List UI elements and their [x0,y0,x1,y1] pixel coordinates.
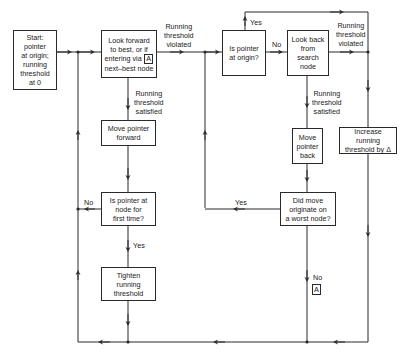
first-time-text: Is pointer at node for first time? [110,196,148,223]
tighten-threshold-node: Tighten running threshold [101,267,156,301]
look-forward-line4: next–best node [104,64,153,73]
look-forward-line2: to best, or if [110,45,148,54]
label-back-violated: Running threshold violated [336,21,366,48]
flowchart: Start: pointer at origin; running thresh… [0,0,410,357]
label-origin-yes: Yes [250,18,262,27]
tighten-threshold-text: Tighten running threshold [114,271,144,298]
label-forward-satisfied: Running threshold satisfied [134,89,164,116]
increase-threshold-text: Increase running threshold by Δ [342,127,394,154]
label-worst-yes: Yes [235,198,247,207]
label-first-yes: Yes [133,241,145,250]
connector-lines [0,0,410,357]
label-forward-violated: Running threshold violated [164,22,194,49]
look-forward-line3: entering viaA [105,54,154,64]
first-time-node: Is pointer at node for first time? [101,192,156,226]
move-forward-node: Move pointer forward [101,120,156,146]
connector-a: A [312,284,321,295]
label-origin-no: No [272,40,281,49]
start-node-text: Start: pointer at origin; running thresh… [16,33,54,87]
start-node: Start: pointer at origin; running thresh… [13,30,57,90]
increase-threshold-node: Increase running threshold by Δ [339,127,397,154]
connector-a-tag: A [144,54,154,64]
move-forward-text: Move pointer forward [108,124,150,142]
worst-node-text: Did move originate on a worst node? [285,196,330,223]
label-back-satisfied: Running threshold satisfied [312,89,342,116]
look-forward-node: Look forward to best, or if entering via… [101,30,157,78]
label-worst-no: No [313,273,322,282]
look-back-text: Look back from search node [290,35,326,71]
is-origin-node: Is pointer at origin? [222,30,266,76]
move-back-node: Move pointer back [292,128,323,164]
look-forward-line1: Look forward [108,36,150,45]
look-back-node: Look back from search node [287,30,329,76]
label-first-no: No [84,198,93,207]
worst-node-node: Did move originate on a worst node? [280,192,336,226]
move-back-text: Move pointer back [297,133,319,160]
is-origin-text: Is pointer at origin? [229,44,259,62]
